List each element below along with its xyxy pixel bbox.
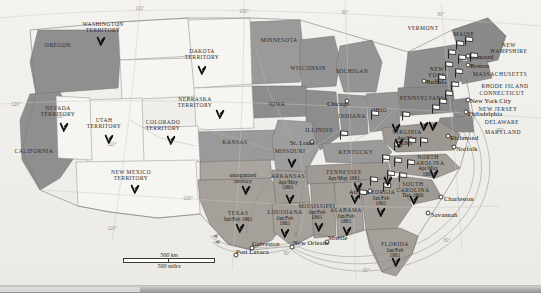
- battle-flag-icon: [370, 172, 379, 190]
- location-pin-icon: [429, 117, 438, 135]
- location-pin-icon: [286, 190, 295, 208]
- location-pin-icon: [97, 32, 106, 50]
- scrollbar-thumb[interactable]: [0, 287, 140, 292]
- graticule-label: 40°: [299, 181, 306, 186]
- graticule-label: 80°: [438, 12, 445, 17]
- location-pin-icon: [377, 203, 386, 221]
- city-dot: [446, 134, 451, 139]
- city-dot: [439, 195, 444, 200]
- location-pin-icon: [167, 131, 176, 149]
- city-dot: [325, 240, 330, 245]
- graticule-label: 100°: [239, 9, 249, 14]
- graticule-label: 40°: [465, 115, 472, 120]
- battle-flag-icon: [432, 100, 441, 118]
- location-pin-icon: [288, 154, 297, 172]
- battle-flag-icon: [407, 155, 416, 173]
- city-dot: [290, 245, 295, 250]
- location-pin-icon: [384, 172, 393, 190]
- city-dot: [310, 140, 315, 145]
- location-pin-icon: [343, 222, 352, 240]
- location-pin-icon: [315, 218, 324, 236]
- battle-flag-icon: [371, 106, 380, 124]
- graticule-label: 30°: [497, 128, 504, 133]
- location-pin-icon: [216, 105, 225, 123]
- city-dot: [422, 79, 427, 84]
- graticule-label: 90°: [342, 10, 349, 15]
- battle-flag-icon: [408, 133, 417, 151]
- city-dot: [345, 99, 350, 104]
- location-pin-icon: [105, 130, 114, 148]
- battle-flag-icon: [402, 107, 411, 125]
- battle-flag-icon: [340, 126, 349, 144]
- graticule-label: 120°: [11, 102, 21, 107]
- location-pin-icon: [236, 219, 245, 237]
- bottom-scrollbar[interactable]: [0, 285, 541, 293]
- location-pin-icon: [392, 253, 401, 271]
- city-dot: [234, 253, 239, 258]
- location-pin-icon: [410, 191, 419, 209]
- location-pin-icon: [242, 181, 251, 199]
- city-dot: [452, 145, 457, 150]
- city-dot: [250, 246, 255, 251]
- city-dot: [426, 211, 431, 216]
- graticule-label: 80°: [444, 238, 451, 243]
- scale-miles-label: 500 miles: [123, 263, 215, 269]
- location-pin-icon: [131, 180, 140, 198]
- location-pin-icon: [60, 118, 69, 136]
- graticule-label: 110°: [135, 6, 144, 11]
- graticule-label: 90°: [284, 251, 291, 256]
- graticule-label: 100°: [183, 196, 193, 201]
- location-pin-icon: [430, 165, 439, 183]
- battle-flag-icon: [420, 133, 429, 151]
- city-dot: [466, 98, 471, 103]
- battle-flag-icon: [470, 48, 479, 66]
- location-pin-icon: [392, 119, 401, 137]
- city-dot: [464, 110, 469, 115]
- graticule-label: 110°: [107, 226, 116, 231]
- location-pin-icon: [281, 224, 290, 242]
- location-pin-icon: [354, 178, 363, 196]
- scale-bar: 500 km 500 miles: [123, 252, 215, 269]
- civil-war-map: 110°100°90°80°120°120°110°40°100°40°30°9…: [0, 0, 541, 293]
- location-pin-icon: [198, 61, 207, 79]
- location-pin-icon: [420, 117, 429, 135]
- graticule-label: 30°: [363, 268, 370, 273]
- battle-flag-icon: [399, 168, 408, 186]
